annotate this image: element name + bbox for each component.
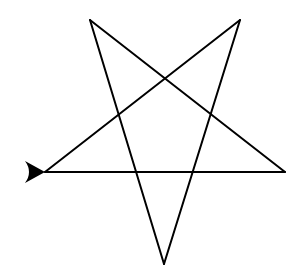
turtle-canvas — [0, 0, 303, 279]
canvas-background — [0, 0, 303, 279]
